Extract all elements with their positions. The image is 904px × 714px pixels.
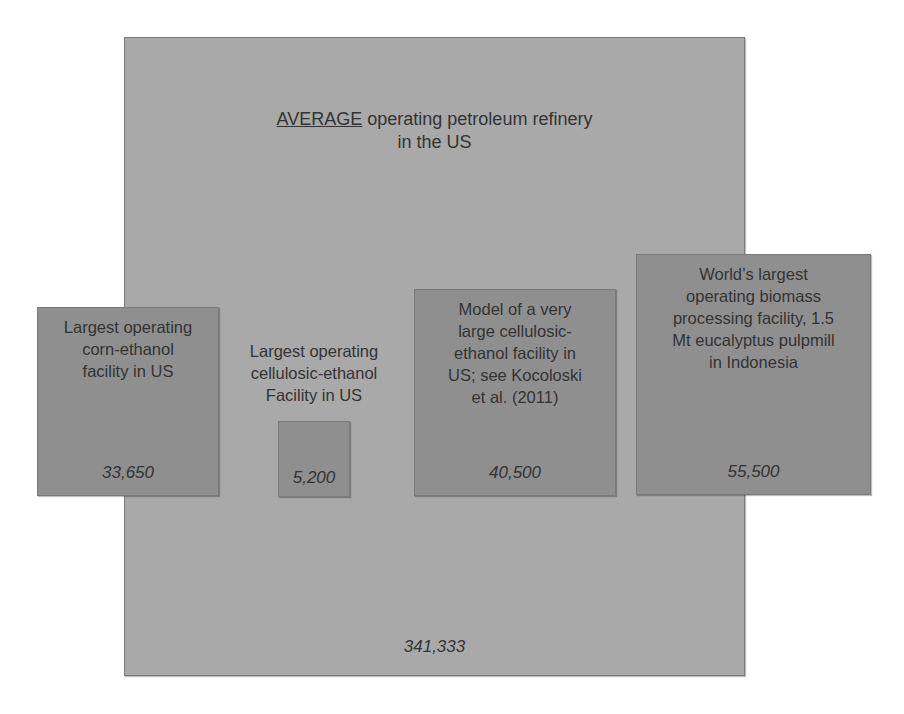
label-line: et al. (2011) (419, 386, 611, 408)
label-line: corn-ethanol (42, 338, 214, 360)
label-line: processing facility, 1.5 (641, 307, 866, 329)
pulpmill-value: 55,500 (637, 462, 870, 482)
refinery-title: AVERAGE operating petroleum refinery in … (125, 108, 744, 154)
cellulosic-ethanol-label: Largest operating cellulosic-ethanol Fac… (226, 340, 402, 406)
pulpmill-label: World’s largest operating biomass proces… (641, 263, 866, 373)
label-line: in Indonesia (641, 351, 866, 373)
refinery-title-rest: operating petroleum refinery (362, 109, 592, 129)
cellulosic-ethanol-box: 5,200 (278, 421, 350, 497)
label-line: ethanol facility in (419, 342, 611, 364)
label-line: cellulosic-ethanol (226, 362, 402, 384)
refinery-title-line2: in the US (125, 131, 744, 154)
label-line: large cellulosic- (419, 320, 611, 342)
label-line: Mt eucalyptus pulpmill (641, 329, 866, 351)
model-facility-box: Model of a very large cellulosic- ethano… (414, 289, 616, 496)
corn-ethanol-box: Largest operating corn-ethanol facility … (37, 307, 219, 496)
refinery-value: 341,333 (125, 637, 744, 657)
corn-ethanol-value: 33,650 (38, 463, 218, 483)
pulpmill-box: World’s largest operating biomass proces… (636, 254, 871, 495)
refinery-title-emphasis: AVERAGE (277, 109, 363, 129)
model-facility-label: Model of a very large cellulosic- ethano… (419, 298, 611, 408)
cellulosic-ethanol-value: 5,200 (279, 468, 349, 488)
label-line: Largest operating (42, 316, 214, 338)
corn-ethanol-label: Largest operating corn-ethanol facility … (42, 316, 214, 382)
label-line: operating biomass (641, 285, 866, 307)
label-line: Model of a very (419, 298, 611, 320)
label-line: World’s largest (641, 263, 866, 285)
label-line: facility in US (42, 360, 214, 382)
label-line: Facility in US (226, 384, 402, 406)
model-facility-value: 40,500 (415, 463, 615, 483)
label-line: Largest operating (226, 340, 402, 362)
label-line: US; see Kocoloski (419, 364, 611, 386)
